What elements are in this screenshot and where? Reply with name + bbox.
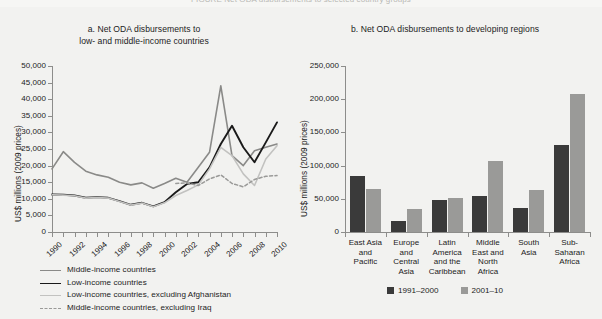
panel-b-bar [407, 209, 422, 232]
panel-b-y-tick-label: 100,000 [297, 161, 339, 170]
panel-a-x-tick-label: 2006 [222, 240, 244, 261]
panel-a-series-line [176, 175, 277, 187]
panel-a-y-tick [48, 215, 52, 216]
panel-b-x-tick [427, 233, 428, 237]
panel-b-bar [472, 196, 487, 233]
panel-a-x-tick [120, 233, 121, 237]
panel-a-x-tick [75, 233, 76, 237]
panel-a-y-tick-label: 40,000 [5, 94, 46, 103]
panel-b-y-tick-label: 0 [297, 227, 339, 236]
panel-a-legend-swatch [40, 283, 61, 284]
panel-b-legend-label: 2001–10 [472, 286, 504, 295]
panel-b-y-tick [341, 199, 345, 200]
panel-a-x-tick-label: 1998 [132, 240, 154, 261]
panel-b-y-tick [341, 66, 345, 67]
panel-a-legend-label: Low-income countries [67, 278, 147, 287]
panel-a-y-tick-label: 10,000 [5, 194, 46, 203]
panel-b-y-tick [341, 132, 345, 133]
panel-a-y-tick-label: 15,000 [5, 177, 46, 186]
panel-a-x-tick-label: 2004 [200, 240, 222, 261]
panel-a-series-line [52, 86, 277, 188]
panel-b-x-tick [468, 233, 469, 237]
panel-a-x-tick [153, 233, 154, 237]
panel-a: a. Net ODA disbursements to low- and mid… [0, 7, 288, 319]
panel-a-y-tick-label: 0 [5, 227, 46, 236]
panel-b-category-label: East AsiaandPacific [345, 238, 386, 267]
panel-b-bar [529, 190, 544, 233]
panel-b-bar [554, 145, 569, 232]
panel-b-category-label-line: Latin [427, 238, 468, 248]
panel-a-y-tick-label: 35,000 [5, 111, 46, 120]
panel-b-category-label-line: Middle [468, 238, 509, 248]
panel-b-y-axis [345, 66, 346, 233]
panel-b-category-label: MiddleEast andNorthAfrica [468, 238, 509, 276]
panel-a-x-tick [210, 233, 211, 237]
panel-a-y-axis [52, 66, 53, 233]
panel-b-category-label-line: North [468, 257, 509, 267]
panel-b-category-label-line: and [386, 248, 427, 258]
panel-b-category-label-line: Asia [386, 267, 427, 277]
panel-a-y-tick-label: 25,000 [5, 144, 46, 153]
panel-a-x-tick-label: 2010 [267, 240, 289, 261]
panel-b-legend-item: 1991–2000 [387, 286, 439, 295]
panel-b-bar [488, 161, 503, 232]
panel-a-y-tick-label: 50,000 [5, 61, 46, 70]
panel-a-y-tick-label: 20,000 [5, 161, 46, 170]
panel-a-x-tick [255, 233, 256, 237]
panel-a-series-line [52, 122, 277, 206]
figure-page: FIGURE Net ODA disbursements to selected… [0, 0, 602, 319]
panel-b-legend-label: 1991–2000 [398, 286, 439, 295]
panel-a-y-tick [48, 83, 52, 84]
panel-b-x-tick [508, 233, 509, 237]
panel-b-category-label: Sub-SaharanAfrica [549, 238, 590, 267]
panel-b-category-label-line: Asia [508, 248, 549, 258]
panel-b-x-tick [590, 233, 591, 237]
panel-a-legend-label: Low-income countries, excluding Afghanis… [67, 290, 231, 299]
panel-a-x-tick [165, 233, 166, 237]
panel-a-series-line [52, 146, 277, 207]
panel-a-x-tick [221, 233, 222, 237]
panel-b-plot: 050,000100,000150,000200,000250,000East … [288, 7, 602, 319]
panel-b-bar [448, 198, 463, 233]
panel-b-category-label-line: East Asia [345, 238, 386, 248]
panel-b-category-label: SouthAsia [508, 238, 549, 257]
panel-b-category-label-line: and the [427, 257, 468, 267]
panel-a-x-tick-label: 1994 [87, 240, 109, 261]
panel-a-y-tick-label: 45,000 [5, 78, 46, 87]
panel-b-category-label-line: America [427, 248, 468, 258]
panel-b-legend-swatch [387, 287, 394, 294]
panel-b-bar [513, 208, 528, 232]
panel-b-bar [366, 189, 381, 232]
panel-a-x-tick-label: 1990 [42, 240, 64, 261]
panel-a-y-tick [48, 66, 52, 67]
panel-a-x-tick-label: 2008 [245, 240, 267, 261]
panel-b-category-label-line: South [508, 238, 549, 248]
panel-a-y-tick [48, 149, 52, 150]
panel-b-legend-item: 2001–10 [461, 286, 504, 295]
panel-a-x-tick [63, 233, 64, 237]
panel-b-bar [570, 94, 585, 232]
panel-a-x-tick [176, 233, 177, 237]
panel-a-y-tick [48, 199, 52, 200]
panel-a-y-tick [48, 166, 52, 167]
panel-b: b. Net ODA disbursements to developing r… [288, 7, 602, 319]
panel-a-x-tick [86, 233, 87, 237]
panel-b-y-tick-label: 150,000 [297, 127, 339, 136]
panel-b-y-tick-label: 50,000 [297, 194, 339, 203]
panel-b-y-tick [341, 166, 345, 167]
panel-b-category-label-line: East and [468, 248, 509, 258]
panel-a-x-tick [142, 233, 143, 237]
panel-a-x-tick [52, 233, 53, 237]
panel-a-x-tick-label: 2002 [177, 240, 199, 261]
panel-b-bar [432, 200, 447, 233]
panel-b-category-label-line: Europe [386, 238, 427, 248]
panel-a-x-tick [277, 233, 278, 237]
panel-b-legend-swatch [461, 287, 468, 294]
cropped-figure-header-text: FIGURE Net ODA disbursements to selected… [0, 0, 602, 4]
panel-b-category-label: EuropeandCentralAsia [386, 238, 427, 276]
panel-a-x-tick-label: 2000 [155, 240, 177, 261]
panel-a-y-tick-label: 30,000 [5, 127, 46, 136]
cropped-figure-header: FIGURE Net ODA disbursements to selected… [0, 0, 602, 7]
panel-a-legend-swatch [40, 295, 61, 296]
panel-a-x-tick [243, 233, 244, 237]
